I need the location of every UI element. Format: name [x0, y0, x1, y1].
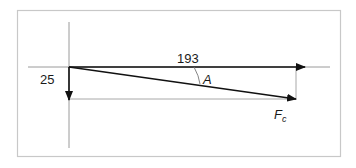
vector-diagram: 193 25 A Fc: [0, 0, 356, 168]
resultant-subscript: c: [282, 114, 287, 124]
angle-label: A: [202, 72, 212, 87]
angle-arc: [194, 67, 200, 84]
frame: [18, 11, 341, 157]
resultant-label: Fc: [274, 107, 287, 124]
horizontal-component-label: 193: [177, 51, 199, 66]
resultant-arrow: [69, 67, 296, 99]
vertical-component-label: 25: [40, 72, 54, 87]
